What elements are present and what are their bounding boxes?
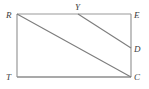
vertex-label-d: D <box>134 45 141 54</box>
vertex-label-r: R <box>6 11 12 20</box>
vertex-label-c: C <box>134 73 140 82</box>
vertex-label-y: Y <box>75 3 80 12</box>
geometry-figure: R Y E D T C <box>0 0 149 89</box>
geometry-canvas <box>0 0 149 89</box>
vertex-label-e: E <box>134 11 140 20</box>
vertex-label-t: T <box>6 73 11 82</box>
segment-diagonal-yd <box>78 14 131 48</box>
segment-diagonal-rc <box>17 14 131 77</box>
